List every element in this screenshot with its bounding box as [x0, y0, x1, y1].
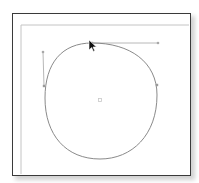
drawing-canvas[interactable] [0, 0, 199, 183]
handle-point-left[interactable] [42, 51, 45, 54]
anchor-points[interactable] [43, 42, 158, 87]
handle-point-top[interactable] [157, 42, 160, 45]
anchor-point[interactable] [156, 84, 158, 86]
anchor-point[interactable] [43, 85, 45, 87]
bezier-handle-left[interactable] [43, 52, 44, 86]
arrow-cursor-icon [89, 40, 96, 51]
closed-bezier-path[interactable] [45, 43, 157, 159]
center-point-icon [99, 99, 102, 102]
